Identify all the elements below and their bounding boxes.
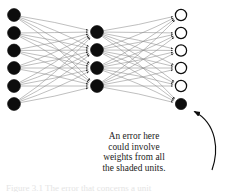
annotation-line-4: the shaded units.	[88, 163, 180, 174]
input-node-1-shaded	[8, 9, 21, 22]
hidden-layer-nodes	[91, 26, 104, 93]
figure-canvas: An error here could involve weights from…	[0, 0, 226, 192]
output-node-2-hollow	[175, 27, 186, 38]
hidden-node-3-shaded	[91, 62, 104, 75]
annotation-arrow	[195, 112, 216, 171]
output-layer-nodes	[175, 9, 186, 109]
output-node-4-hollow	[175, 62, 186, 73]
edge-input2-to-hidden1	[21, 32, 88, 33]
output-node-5-hollow	[175, 80, 186, 91]
edge-input6-to-hidden4	[21, 88, 89, 103]
edge-hidden3-to-output1	[103, 19, 174, 64]
output-node-1-hollow	[175, 9, 186, 20]
input-node-4-shaded	[8, 62, 21, 75]
input-node-3-shaded	[8, 44, 21, 57]
input-layer-nodes	[8, 9, 21, 111]
edge-hidden4-to-output6	[104, 87, 174, 102]
output-node-6-shaded	[175, 98, 186, 109]
input-node-5-shaded	[8, 80, 21, 93]
input-node-6-shaded	[8, 98, 21, 111]
annotation-line-3: weights from all	[88, 152, 180, 163]
hidden-node-4-shaded	[91, 80, 104, 93]
edge-hidden1-to-output3	[104, 33, 174, 48]
input-node-2-shaded	[8, 27, 21, 40]
annotation-text: An error here could involve weights from…	[88, 131, 180, 173]
annotation-line-1: An error here	[88, 131, 180, 142]
edge-input1-to-hidden1	[21, 16, 89, 30]
edge-hidden1-to-output6	[102, 36, 175, 98]
hidden-node-1-shaded	[91, 26, 104, 39]
edges-hidden-to-output	[102, 17, 175, 103]
figure-caption-partial: Figure 3.1 The error that concerns a uni…	[6, 183, 226, 192]
annotation-line-2: could involve	[88, 142, 180, 153]
hidden-node-2-shaded	[91, 44, 104, 57]
edge-input2-to-hidden4	[20, 37, 90, 82]
output-node-3-hollow	[175, 45, 186, 56]
edges-input-to-hidden	[19, 16, 90, 102]
